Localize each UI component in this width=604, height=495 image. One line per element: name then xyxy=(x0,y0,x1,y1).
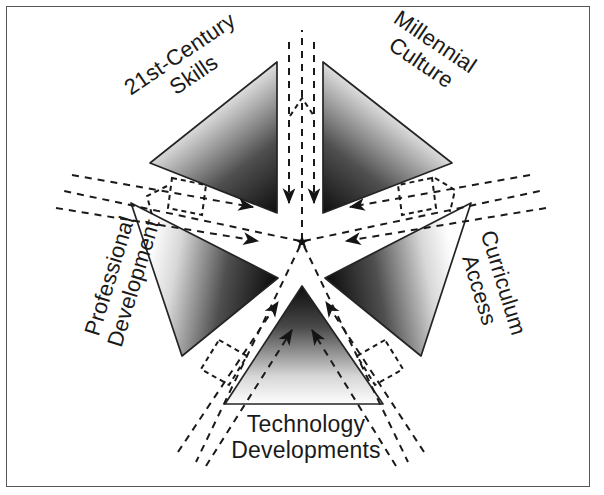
flow-loop-ul xyxy=(168,178,206,215)
flow-loop-ll xyxy=(201,340,247,385)
figure-frame: 21st-Century Skills Millennial Culture C… xyxy=(0,0,604,495)
node-label-technology: Technology Developments xyxy=(192,412,420,464)
flow-loop-ur xyxy=(398,178,436,215)
